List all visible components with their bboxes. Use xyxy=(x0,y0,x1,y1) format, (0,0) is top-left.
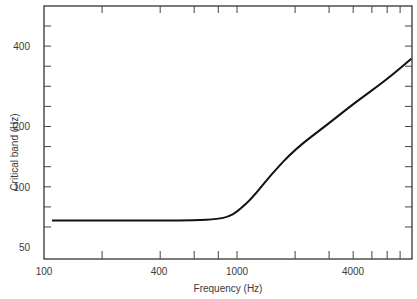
x-tick-label-4000: 4000 xyxy=(342,266,364,277)
chart-canvas xyxy=(0,0,417,299)
critical-band-curve xyxy=(52,59,411,221)
x-axis-title: Frequency (Hz) xyxy=(194,283,263,294)
x-tick-label-400: 400 xyxy=(151,266,168,277)
y-tick-label-50: 50 xyxy=(0,242,30,253)
x-tick-label-1000: 1000 xyxy=(226,266,248,277)
y-axis-title: Critical band (Hz) xyxy=(9,113,20,190)
x-tick-label-100: 100 xyxy=(36,266,53,277)
y-tick-label-400: 400 xyxy=(0,41,30,52)
